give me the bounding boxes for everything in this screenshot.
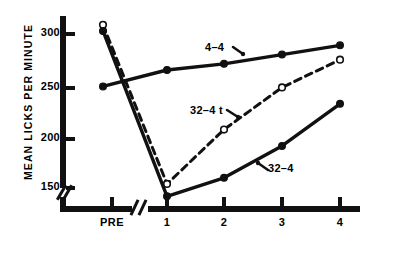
series-annotation-32-4-t: 32–4 t xyxy=(190,104,223,116)
data-point-marker xyxy=(221,174,228,181)
annotation-pointer-head-1 xyxy=(241,52,245,56)
data-point-marker xyxy=(100,28,107,35)
data-point-marker xyxy=(221,60,228,67)
data-point-marker xyxy=(337,42,344,49)
annotation-pointer-head-2 xyxy=(236,115,240,119)
chart-figure: MEAN LICKS PER MINUTE 150 200 250 300 PR… xyxy=(0,0,408,259)
annotation-pointer-head-3 xyxy=(256,161,260,165)
data-point-marker xyxy=(221,126,228,133)
plot-area xyxy=(0,0,408,259)
data-point-marker xyxy=(279,51,286,58)
data-point-marker xyxy=(164,67,171,74)
data-point-marker xyxy=(279,84,286,91)
data-point-marker xyxy=(100,83,107,90)
series-annotation-32-4: 32–4 xyxy=(268,162,294,174)
data-point-marker xyxy=(337,56,344,63)
data-point-marker xyxy=(164,193,171,200)
data-point-marker xyxy=(337,100,344,107)
series-annotation-4-4: 4–4 xyxy=(205,41,224,53)
data-point-marker xyxy=(279,143,286,150)
